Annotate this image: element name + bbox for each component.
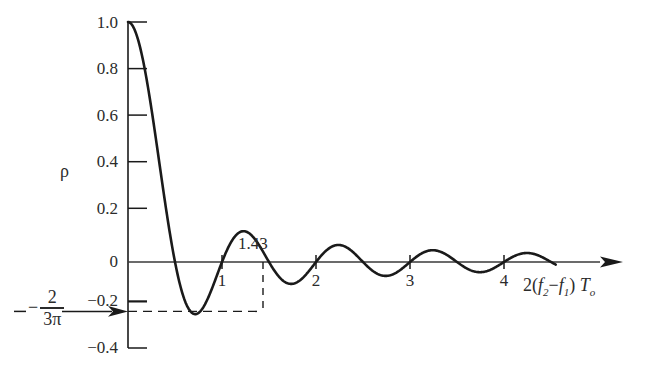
minimum-x-annotation: 1.43 <box>238 235 268 252</box>
x-axis-arrowhead <box>600 257 623 268</box>
figure-canvas: ρ 1.0 0.8 0.6 0.4 0.2 0 −0.2 −0.4 1 2 3 … <box>0 0 646 375</box>
y-tick-label-0: 0 <box>62 253 118 270</box>
x-axis-title: 2(f2−f1) To <box>523 276 595 298</box>
x-axis-title-prefix: 2( <box>523 275 538 295</box>
y-tick-label-0.4: 0.4 <box>62 153 118 170</box>
x-tick-label-4: 4 <box>490 272 518 289</box>
fraction-minus-sign: − <box>28 298 38 318</box>
y-tick-label-0.6: 0.6 <box>62 107 118 124</box>
y-tick-label-0.2: 0.2 <box>62 200 118 217</box>
rho-curve <box>128 22 556 314</box>
plot-area <box>0 0 646 375</box>
fraction-stack: 2 3π <box>40 288 64 328</box>
x-axis-title-T: T <box>580 275 590 295</box>
x-tick-label-1: 1 <box>208 272 236 289</box>
fraction-numerator: 2 <box>45 288 60 307</box>
fraction-denominator: 3π <box>40 309 64 328</box>
x-axis-title-T-sub: o <box>590 286 596 298</box>
y-tick-label-1.0: 1.0 <box>62 14 118 31</box>
y-tick-label-0.8: 0.8 <box>62 60 118 77</box>
minimum-value-fraction-annotation: − 2 3π <box>28 288 64 328</box>
y-tick-label-minus-0.4: −0.4 <box>52 339 118 356</box>
x-axis-title-minus: − <box>549 275 559 295</box>
x-axis-title-close: ) <box>569 275 575 295</box>
x-tick-label-2: 2 <box>302 272 330 289</box>
x-tick-label-3: 3 <box>396 272 424 289</box>
